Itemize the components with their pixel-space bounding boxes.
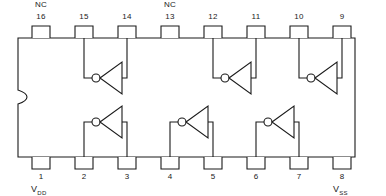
pin-tab-1 [32, 157, 50, 169]
pin-tab-7 [290, 157, 308, 169]
vss-label-subscript: SS [339, 190, 348, 196]
gate-bottom-1-bubble [92, 118, 100, 126]
pin-number-2: 2 [82, 173, 87, 181]
nc-label-pin16: NC [35, 1, 47, 9]
gate-bottom-3-output-wire [294, 122, 299, 157]
pin-number-16: 16 [36, 13, 46, 21]
pin-tab-10 [290, 26, 308, 38]
gate-top-2-output-wire [251, 38, 256, 78]
pin-number-10: 10 [294, 13, 304, 21]
top-pin-tabs [32, 26, 351, 38]
package-outline-group [18, 38, 355, 157]
pin-tab-14 [118, 26, 136, 38]
gate-bottom-1-output-wire [122, 122, 127, 157]
pin-tab-8 [333, 157, 351, 169]
pin-number-7: 7 [297, 173, 302, 181]
pin-tab-11 [247, 26, 265, 38]
ic-pinout-diagram: 16 15 14 13 12 11 10 9 NC NC 1 2 3 4 5 6… [0, 0, 386, 196]
pin-number-4: 4 [168, 173, 173, 181]
pin-number-8: 8 [340, 173, 345, 181]
gate-bottom-1-triangle [100, 106, 122, 138]
gate-top-1 [84, 38, 127, 94]
pin-number-3: 3 [125, 173, 130, 181]
gate-top-1-triangle [100, 62, 122, 94]
pin-tab-13 [161, 26, 179, 38]
pin-tab-6 [247, 157, 265, 169]
pin-number-14: 14 [122, 13, 132, 21]
pin-number-1: 1 [39, 173, 44, 181]
gate-top-3-bubble [307, 74, 315, 82]
gate-bottom-3-triangle [272, 106, 294, 138]
gate-top-3-input-wire [299, 38, 307, 78]
pin-number-12: 12 [208, 13, 218, 21]
gate-bottom-2-output-wire [208, 122, 213, 157]
pin-tab-5 [204, 157, 222, 169]
gate-bottom-2-bubble [178, 118, 186, 126]
pin-tab-9 [333, 26, 351, 38]
pin-tab-15 [75, 26, 93, 38]
pin-tab-2 [75, 157, 93, 169]
gate-top-3-output-wire [337, 38, 342, 78]
gate-bottom-2-input-wire [170, 122, 178, 157]
pin-tab-16 [32, 26, 50, 38]
gate-top-2-triangle [229, 62, 251, 94]
vss-label: VSS [333, 185, 348, 196]
pin-number-9: 9 [340, 13, 345, 21]
gate-bottom-3-bubble [264, 118, 272, 126]
gate-top-1-output-wire [122, 38, 127, 78]
pin-number-6: 6 [254, 173, 259, 181]
nc-label-pin13: NC [164, 1, 176, 9]
gate-bottom-3-input-wire [256, 122, 264, 157]
gate-bottom-2 [170, 106, 213, 157]
gate-top-3 [299, 38, 342, 94]
pin-number-13: 13 [165, 13, 175, 21]
vdd-label-subscript: DD [37, 190, 46, 196]
pin-tab-3 [118, 157, 136, 169]
vdd-label: VDD [31, 185, 47, 196]
gate-bottom-2-triangle [186, 106, 208, 138]
bottom-pin-tabs [32, 157, 351, 169]
pin-number-11: 11 [252, 13, 261, 21]
pin-tab-12 [204, 26, 222, 38]
gate-bottom-1 [84, 106, 127, 157]
gate-top-1-input-wire [84, 38, 92, 78]
gate-top-2-bubble [221, 74, 229, 82]
gate-top-3-triangle [315, 62, 337, 94]
package-body-outline [18, 38, 355, 157]
gate-bottom-1-input-wire [84, 122, 92, 157]
ic-schematic-canvas [0, 0, 386, 196]
gate-top-1-bubble [92, 74, 100, 82]
pin-number-15: 15 [79, 13, 89, 21]
gate-top-2-input-wire [213, 38, 221, 78]
pin-number-5: 5 [211, 173, 216, 181]
pin-tab-4 [161, 157, 179, 169]
gate-bottom-3 [256, 106, 299, 157]
gate-top-2 [213, 38, 256, 94]
